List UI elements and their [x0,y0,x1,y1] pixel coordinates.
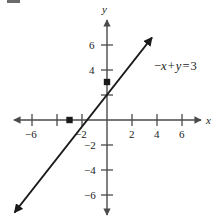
y-tick-label-4: 4 [89,65,95,76]
graph-figure: −6 −2 2 4 6 6 4 −2 −4 −6 x y −x + y = 3 [0,0,222,222]
x-tick-label-2: 2 [129,129,135,140]
y-tick-label-neg2: −2 [84,140,96,151]
point-y-intercept [104,79,110,85]
equation-rhs: 3 [191,59,197,73]
coordinate-plane-svg [0,0,222,222]
equation-plus: + [168,59,175,73]
equation-lead-sign: − [154,59,161,73]
equation-var-x: x [161,59,167,73]
y-axis-label: y [102,4,107,15]
y-tick-label-neg4: −4 [84,165,96,176]
equation-annotation: −x + y = 3 [154,60,197,73]
x-tick-label-neg6: −6 [25,129,37,140]
point-x-intercept [66,117,72,123]
y-tick-label-neg6: −6 [84,190,96,201]
equation-equals: = [182,59,189,73]
x-tick-label-4: 4 [154,129,160,140]
y-tick-label-6: 6 [89,40,95,51]
x-axis-label: x [206,115,211,126]
equation-var-y: y [176,59,182,73]
x-tick-label-6: 6 [179,129,185,140]
